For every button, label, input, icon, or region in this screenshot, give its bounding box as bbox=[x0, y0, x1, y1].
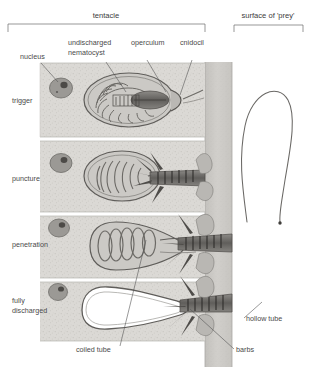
discharged-thread bbox=[241, 91, 292, 225]
stage-panel-trigger bbox=[40, 63, 205, 137]
nucleus-cell-3 bbox=[49, 219, 70, 237]
callout-hollow-tube: hollow tube bbox=[246, 314, 282, 323]
nucleus-cell-1 bbox=[50, 78, 73, 98]
bracket-prey bbox=[234, 25, 303, 32]
stage-panel-fully-discharged bbox=[40, 276, 232, 341]
callout-undischarged-nematocyst-line1: undischarged bbox=[68, 38, 111, 47]
callout-undischarged-nematocyst-line2: nematocyst bbox=[68, 48, 105, 57]
nucleus-cell-4 bbox=[49, 284, 68, 301]
callout-operculum: operculum bbox=[131, 38, 165, 47]
callout-coiled-tube: coiled tube bbox=[76, 345, 111, 354]
stage-label-fully-discharged-line1: fully bbox=[12, 296, 25, 305]
stage-label-puncture: puncture bbox=[12, 174, 40, 183]
callout-cnidocil: cnidocil bbox=[180, 38, 204, 47]
stage-label-fully-discharged-line2: discharged bbox=[12, 306, 47, 315]
callout-nucleus: nucleus bbox=[20, 52, 45, 61]
figure-canvas: tentacle surface of 'prey' bbox=[0, 0, 317, 367]
stage-panel-puncture bbox=[40, 141, 213, 212]
region-label-prey: surface of 'prey' bbox=[241, 11, 295, 20]
stage-label-trigger: trigger bbox=[12, 96, 33, 105]
stage-label-penetration: penetration bbox=[12, 240, 48, 249]
nematocyst-discharge-figure: tentacle surface of 'prey' bbox=[0, 0, 317, 367]
nucleus-cell-2 bbox=[50, 154, 72, 173]
bracket-tentacle bbox=[8, 24, 205, 32]
callout-barbs: barbs bbox=[236, 345, 254, 354]
region-label-tentacle: tentacle bbox=[93, 11, 120, 20]
stage-panel-penetration bbox=[40, 214, 232, 278]
